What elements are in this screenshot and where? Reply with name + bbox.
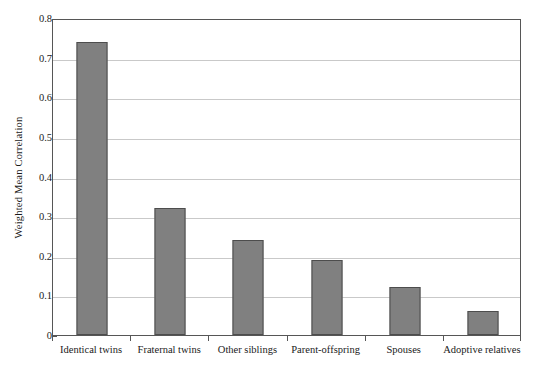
- x-axis-tick-mark: [443, 336, 444, 341]
- bar-other-siblings[interactable]: [233, 240, 264, 335]
- bars-group: [53, 20, 520, 335]
- x-axis-tick-group: [52, 336, 521, 342]
- y-axis-tick-group: 0.80.70.60.50.40.30.20.10: [0, 19, 52, 336]
- bar-slot: [366, 20, 444, 335]
- plot-area: [52, 19, 521, 336]
- x-axis-label-adoptive-relatives: Adoptive relatives: [435, 343, 529, 357]
- y-axis-tick-label: 0.7: [18, 54, 52, 64]
- bar-slot: [444, 20, 522, 335]
- y-axis-tick-label: 0.1: [18, 291, 52, 301]
- bar-spouses[interactable]: [389, 287, 420, 335]
- y-axis-tick-label: 0.3: [18, 212, 52, 222]
- bar-slot: [131, 20, 209, 335]
- bar-slot: [288, 20, 366, 335]
- bar-identical-twins[interactable]: [77, 42, 108, 335]
- x-axis-label-group: Identical twinsFraternal twinsOther sibl…: [52, 343, 521, 361]
- y-axis-tick-label: 0.6: [18, 93, 52, 103]
- bar-slot: [209, 20, 287, 335]
- bar-parent-offspring[interactable]: [311, 260, 342, 335]
- y-axis-tick-label: 0.4: [18, 173, 52, 183]
- x-axis-tick-mark: [52, 336, 53, 341]
- bar-fraternal-twins[interactable]: [155, 208, 186, 335]
- x-axis-tick-mark: [520, 336, 521, 341]
- y-axis-tick-label: 0.8: [18, 14, 52, 24]
- bar-slot: [53, 20, 131, 335]
- y-axis-tick-label: 0.5: [18, 133, 52, 143]
- x-axis-tick-mark: [287, 336, 288, 341]
- bar-chart-figure: Weighted Mean Correlation 0.80.70.60.50.…: [0, 0, 540, 368]
- x-axis-tick-mark: [208, 336, 209, 341]
- x-axis-tick-mark: [365, 336, 366, 341]
- y-axis-tick-label: 0: [18, 331, 52, 341]
- x-axis-tick-mark: [130, 336, 131, 341]
- y-axis-tick-label: 0.2: [18, 252, 52, 262]
- bar-adoptive-relatives[interactable]: [467, 311, 498, 335]
